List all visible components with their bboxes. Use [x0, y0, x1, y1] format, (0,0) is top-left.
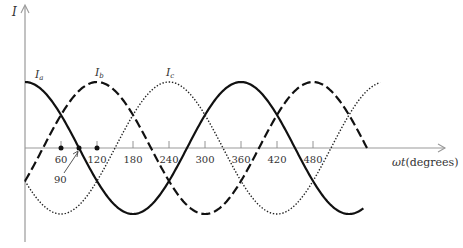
- x-tick-label-360: 360: [231, 154, 250, 165]
- x-tick-label-180: 180: [123, 154, 142, 165]
- marker-120: [95, 146, 100, 151]
- y-axis: [21, 5, 29, 242]
- marker-60: [59, 146, 64, 151]
- x-tick-label-300: 300: [195, 154, 214, 165]
- label-ib: Ib: [94, 66, 104, 80]
- label-ic: Ic: [165, 66, 174, 80]
- y-axis-label: I: [11, 5, 17, 19]
- label-ia: Ia: [34, 68, 44, 82]
- x-tick-label-420: 420: [267, 154, 286, 165]
- three-phase-current-diagram: I ωt(degrees) 60120180240300360420480 90…: [0, 0, 463, 248]
- annotation-label-90: 90: [54, 174, 67, 185]
- x-tick-label-120: 120: [87, 154, 106, 165]
- x-tick-label-60: 60: [55, 154, 68, 165]
- x-axis-label: ωt(degrees): [392, 156, 459, 169]
- x-tick-label-480: 480: [303, 154, 322, 165]
- marker-90: [77, 146, 82, 151]
- x-tick-label-240: 240: [159, 154, 178, 165]
- x-axis: [25, 144, 445, 152]
